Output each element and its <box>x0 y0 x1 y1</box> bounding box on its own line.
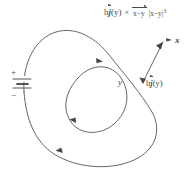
battery-minus-label: − <box>11 91 16 100</box>
formula-current-vector: j <box>109 8 112 17</box>
cross-product-symbol: × <box>125 9 130 17</box>
battery-plus-label: + <box>11 68 16 77</box>
biot-savart-formula: hj(y) × x−y |x−y|3 <box>104 8 167 17</box>
formula-argument: (y) <box>111 8 122 17</box>
outer-loop-path <box>24 30 157 166</box>
figure-canvas: hj(y) × x−y |x−y|3 x y hj(y) + − <box>0 0 192 173</box>
fraction-denominator: |x−y|3 <box>148 9 167 18</box>
current-arrow-bottom <box>56 147 63 153</box>
current-element-vector: j <box>150 79 152 88</box>
current-element-arg: (y) <box>153 78 163 88</box>
fraction-numerator: x−y <box>132 9 146 19</box>
label-point-x: x <box>175 36 180 45</box>
current-arrow-top <box>96 58 103 63</box>
label-point-y: y <box>118 78 122 87</box>
battery-symbol <box>13 76 31 88</box>
denominator-exponent: 3 <box>163 7 166 13</box>
diagram-linework <box>0 0 192 173</box>
label-current-element: hj(y) <box>146 79 163 88</box>
distance-fraction: x−y |x−y|3 <box>132 8 167 17</box>
x-point-marker <box>166 38 172 41</box>
